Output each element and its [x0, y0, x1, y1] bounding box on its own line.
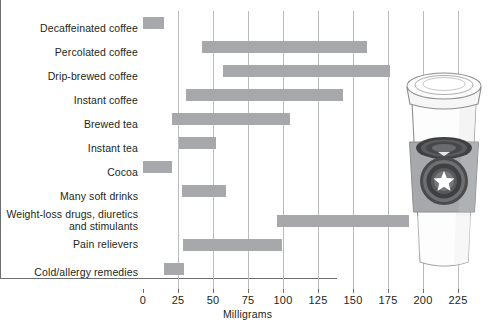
bar-percolated-coffee: [202, 41, 367, 53]
category-label-cocoa: Cocoa: [0, 166, 138, 178]
takeaway-coffee-cup-illustration: [398, 66, 490, 272]
tick-label-100: 100: [274, 294, 293, 306]
y-axis-line: [0, 0, 1, 278]
category-label-decaffeinated-coffee: Decaffeinated coffee: [0, 22, 138, 34]
caffeine-range-chart: Decaffeinated coffee Percolated coffee D…: [0, 0, 495, 325]
gridline-175: [388, 11, 389, 289]
gridline-25: [178, 11, 179, 289]
bar-instant-coffee: [186, 89, 343, 101]
bar-pain-relievers: [183, 239, 282, 251]
tick-25: [178, 289, 179, 293]
bar-many-soft-drinks: [182, 185, 226, 197]
tick-100: [283, 289, 284, 293]
tick-label-200: 200: [414, 294, 433, 306]
tick-200: [423, 289, 424, 293]
bar-cold-allergy-remedies: [164, 263, 184, 275]
category-label-instant-coffee: Instant coffee: [0, 94, 138, 106]
tick-label-225: 225: [449, 294, 468, 306]
bar-cocoa: [143, 161, 172, 173]
category-label-percolated-coffee: Percolated coffee: [0, 46, 138, 58]
bar-brewed-tea: [172, 113, 290, 125]
category-label-weight-loss-line2: and stimulants: [0, 220, 138, 232]
tick-175: [388, 289, 389, 293]
tick-label-125: 125: [309, 294, 328, 306]
x-axis-title: Milligrams: [0, 308, 495, 320]
tick-label-150: 150: [344, 294, 363, 306]
category-label-drip-brewed-coffee: Drip-brewed coffee: [0, 70, 138, 82]
x-axis-line: [0, 278, 337, 279]
tick-75: [248, 289, 249, 293]
category-label-weight-loss-line1: Weight-loss drugs, diuretics: [0, 208, 138, 220]
tick-225: [458, 289, 459, 293]
category-label-cold-allergy-remedies: Cold/allergy remedies: [0, 266, 138, 278]
bar-instant-tea: [179, 137, 216, 149]
category-label-brewed-tea: Brewed tea: [0, 118, 138, 130]
tick-150: [353, 289, 354, 293]
category-label-many-soft-drinks: Many soft drinks: [0, 190, 138, 202]
tick-0: [143, 289, 144, 293]
tick-label-0: 0: [140, 294, 146, 306]
category-label-pain-relievers: Pain relievers: [0, 238, 138, 250]
bar-decaffeinated-coffee: [143, 17, 164, 29]
tick-label-175: 175: [379, 294, 398, 306]
tick-50: [213, 289, 214, 293]
tick-label-50: 50: [207, 294, 220, 306]
tick-label-25: 25: [172, 294, 185, 306]
tick-label-75: 75: [242, 294, 255, 306]
bar-drip-brewed-coffee: [223, 65, 390, 77]
category-label-instant-tea: Instant tea: [0, 142, 138, 154]
bar-weight-loss-drugs: [277, 215, 409, 227]
tick-125: [318, 289, 319, 293]
